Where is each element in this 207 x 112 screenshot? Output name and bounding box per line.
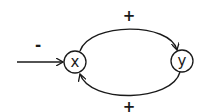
edge-y-to-x-sign: +	[123, 98, 136, 112]
node-y: y	[171, 50, 193, 72]
node-y-label: y	[178, 52, 187, 70]
node-x-label: x	[71, 53, 80, 71]
node-x: x	[64, 51, 86, 73]
edge-y-to-x	[80, 72, 180, 96]
input-sign-label: -	[35, 36, 41, 54]
causal-loop-diagram: - + + x y	[0, 0, 207, 112]
edge-x-to-y	[80, 29, 177, 51]
edge-x-to-y-sign: +	[123, 7, 136, 25]
